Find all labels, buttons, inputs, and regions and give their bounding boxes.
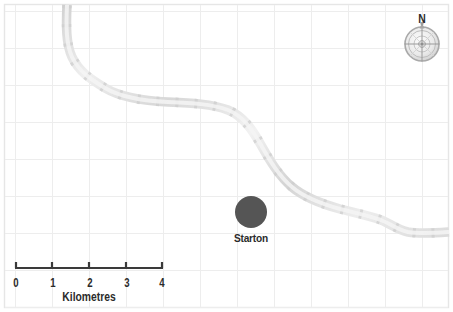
scale-tick-1: 1 (45, 276, 61, 290)
compass-north-label: N (415, 11, 429, 26)
map-graphics-layer (0, 0, 453, 312)
settlement-marker-starton[interactable] (235, 196, 267, 228)
scale-tick-4: 4 (154, 276, 170, 290)
scale-tick-0: 0 (8, 276, 24, 290)
map-canvas: Starton N 0 1 2 3 4 Kilometres (0, 0, 453, 312)
settlement-label-starton: Starton (227, 232, 275, 244)
scale-bar-caption: Kilometres (46, 290, 132, 304)
scale-tick-3: 3 (119, 276, 135, 290)
scale-tick-2: 2 (82, 276, 98, 290)
